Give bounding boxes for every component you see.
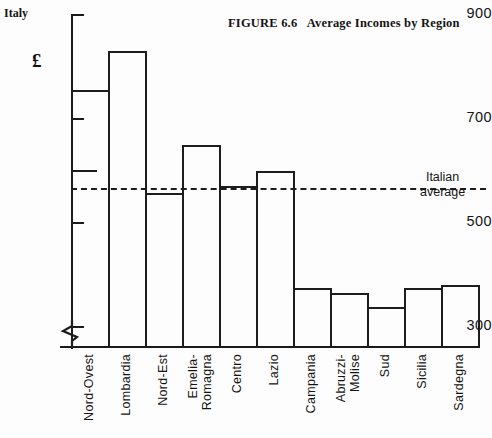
bar-lombardia [108,51,147,348]
x-label-lazio: Lazio [256,354,293,438]
x-label-line: Nord-Est [157,354,170,406]
bar-centro [219,186,258,348]
x-label-line: Sicilia [416,354,429,389]
bar-sicilia [404,288,443,348]
x-label-line: Sardegna [453,354,466,411]
x-label-campania: Campania [293,354,330,438]
x-label-nord-est: Nord-Est [145,354,182,438]
x-label-emelia-romagna: Emelia-Romagna [182,354,219,438]
bar-nord-est [145,193,184,348]
italian-average-label-line1: Italian [420,170,465,185]
x-label-line: Lazio [268,354,281,385]
bar-emelia-romagna [182,145,221,348]
x-label-line: Nord-Ovest [83,354,96,421]
italian-average-label-line2: average [420,185,465,200]
x-label-sud: Sud [367,354,404,438]
bar-sardegna [441,285,480,348]
bar-lazio [256,171,295,348]
x-label-line: Romagna [201,354,214,410]
bar-abruzzi-molise [330,293,369,348]
x-label-line: Abruzzi- [335,354,348,402]
bar-sud [367,307,406,348]
x-label-line: Centro [231,354,244,393]
x-label-nord-ovest: Nord-Ovest [71,354,108,438]
x-label-sicilia: Sicilia [404,354,441,438]
x-label-sardegna: Sardegna [441,354,478,438]
italian-average-label: Italian average [420,170,465,200]
x-label-line: Campania [305,354,318,413]
bar-campania [293,288,332,348]
bar-nord-ovest [71,90,110,348]
x-label-line: Emelia- [187,354,200,398]
x-label-abruzzi-molise: Abruzzi-Molise [330,354,367,438]
figure-panel: Italy £ FIGURE 6.6 Average Incomes by Re… [0,0,492,438]
x-label-line: Sud [379,354,392,377]
x-label-centro: Centro [219,354,256,438]
x-label-lombardia: Lombardia [108,354,145,438]
x-label-line: Lombardia [120,354,133,416]
x-label-line: Molise [349,354,362,392]
